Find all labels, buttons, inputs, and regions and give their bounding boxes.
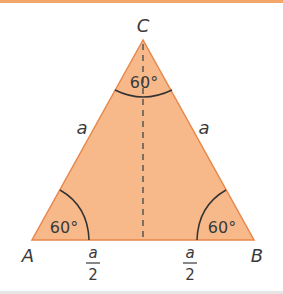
triangle-diagram: C A B 60° 60° 60° a a a 2 a 2	[0, 0, 283, 294]
angle-c-label: 60°	[130, 73, 158, 92]
angle-a-label: 60°	[50, 218, 78, 237]
side-right-label: a	[198, 117, 209, 138]
vertex-b-label: B	[251, 245, 263, 266]
side-left-label: a	[76, 117, 87, 138]
half-base-left-denominator: 2	[88, 266, 98, 284]
half-base-left-numerator: a	[88, 244, 97, 262]
half-base-right-numerator: a	[185, 244, 194, 262]
vertex-a-label: A	[21, 245, 34, 266]
vertex-c-label: C	[137, 15, 150, 36]
angle-b-label: 60°	[208, 218, 236, 237]
half-base-right-denominator: 2	[185, 266, 195, 284]
